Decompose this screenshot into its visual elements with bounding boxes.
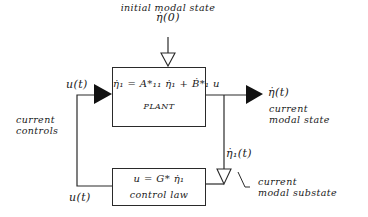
- controls-label-line1: current: [16, 114, 55, 125]
- control-law-equation: u = G* η̇₁: [113, 173, 205, 184]
- control-input-symbol: u(t): [66, 79, 88, 90]
- substate-symbol: η̇₁(t): [226, 148, 252, 159]
- initial-state-symbol: η̇(0): [150, 12, 186, 23]
- control-output-symbol: u(t): [69, 192, 91, 203]
- output-label-line1: current: [269, 103, 308, 114]
- feedback-line-left: [77, 95, 112, 186]
- output-arrow-icon: [246, 85, 263, 104]
- control-law-label: control law: [113, 189, 205, 200]
- plant-block: η̇₁ = A*₁₁ η̇₁ + Ḃ*₁ u PLANT: [112, 67, 206, 127]
- substate-label-line1: current: [258, 176, 297, 187]
- substate-label-line2: modal substate: [258, 187, 337, 198]
- input-open-arrow-icon: [161, 53, 175, 66]
- control-input-arrow-icon: [94, 84, 112, 104]
- plant-equation: η̇₁ = A*₁₁ η̇₁ + Ḃ*₁ u: [113, 78, 205, 89]
- plant-label: PLANT: [113, 101, 205, 112]
- control-law-block: u = G* η̇₁ control law: [112, 168, 206, 206]
- substate-open-arrow-icon: [217, 169, 231, 184]
- controls-label-line2: controls: [16, 125, 58, 136]
- substate-leader-line: [238, 172, 250, 187]
- output-symbol: η̇(t): [268, 87, 289, 98]
- output-label-line2: modal state: [269, 114, 330, 125]
